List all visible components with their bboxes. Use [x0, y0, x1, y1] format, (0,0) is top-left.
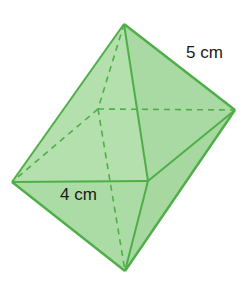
slant-edge-label: 5 cm: [186, 43, 223, 62]
edge-left-front: [12, 181, 148, 182]
base-edge-label: 4 cm: [60, 185, 97, 204]
octahedron-diagram: 5 cm 4 cm: [0, 0, 248, 288]
